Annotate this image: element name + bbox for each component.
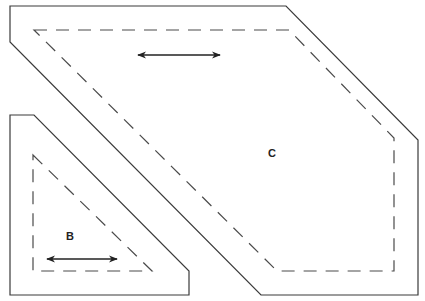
- piece-b-label: B: [66, 230, 74, 242]
- piece-c: C: [10, 6, 418, 295]
- piece-b: B: [10, 115, 189, 295]
- pattern-diagram: C B: [0, 0, 425, 301]
- piece-c-seam-line: [34, 30, 394, 271]
- piece-b-seam-line: [33, 155, 152, 271]
- piece-b-cut-line: [10, 115, 189, 295]
- piece-c-cut-line: [10, 6, 418, 295]
- piece-c-label: C: [268, 147, 276, 159]
